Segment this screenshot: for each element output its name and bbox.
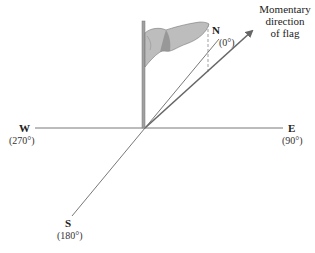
north-degrees: (0°)	[219, 38, 235, 48]
south-degrees: (180°)	[57, 231, 83, 241]
east-label: E	[288, 123, 295, 134]
east-degrees: (90°)	[282, 136, 303, 146]
flag-wind-direction-diagram: N (0°) W (270°) E (90°) S (180°) Momenta…	[0, 0, 315, 253]
west-degrees: (270°)	[9, 136, 35, 146]
south-label: S	[65, 218, 71, 229]
arrow-label-line-2: direction	[256, 15, 314, 27]
momentary-direction-label: Momentary direction of flag	[256, 3, 314, 39]
arrow-label-line-1: Momentary	[256, 3, 314, 15]
north-label: N	[212, 25, 220, 36]
west-label: W	[19, 123, 30, 134]
arrow-label-line-3: of flag	[256, 27, 314, 39]
south-axis	[72, 128, 145, 216]
flagpole	[142, 21, 145, 128]
flag-icon	[145, 22, 209, 67]
